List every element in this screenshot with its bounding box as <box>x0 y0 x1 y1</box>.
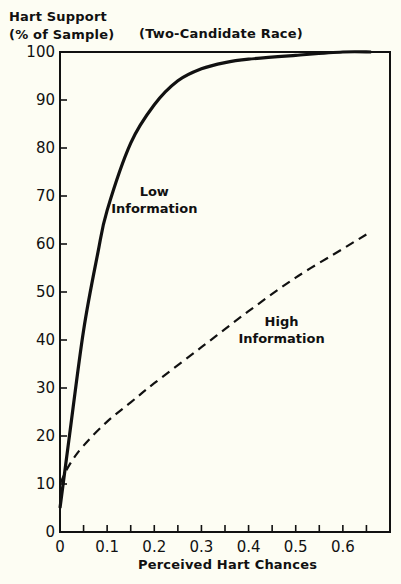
y-tick-label: 80 <box>36 139 55 157</box>
high-information-line <box>60 234 366 484</box>
series-labels: LowInformationHighInformation <box>111 184 325 346</box>
x-tick-label: 0.3 <box>189 538 213 556</box>
x-axis-ticks: 00.10.20.30.40.50.6 <box>55 525 366 556</box>
y-tick-label: 30 <box>36 379 55 397</box>
plot-frame <box>60 52 390 532</box>
y-tick-label: 70 <box>36 187 55 205</box>
y-tick-label: 90 <box>36 91 55 109</box>
high-information-label: High <box>265 314 299 329</box>
low-information-line <box>60 52 371 508</box>
x-tick-label: 0.6 <box>331 538 355 556</box>
high-information-label: Information <box>238 331 324 346</box>
x-tick-label: 0.5 <box>284 538 308 556</box>
x-tick-label: 0.1 <box>95 538 119 556</box>
y-tick-label: 10 <box>36 475 55 493</box>
y-tick-label: 100 <box>26 43 55 61</box>
y-tick-label: 20 <box>36 427 55 445</box>
x-tick-label: 0 <box>55 538 65 556</box>
low-information-label: Information <box>111 201 197 216</box>
y-tick-label: 40 <box>36 331 55 349</box>
y-tick-label: 60 <box>36 235 55 253</box>
low-information-label: Low <box>140 184 169 199</box>
y-tick-label: 0 <box>45 523 55 541</box>
y-tick-label: 50 <box>36 283 55 301</box>
x-tick-label: 0.2 <box>142 538 166 556</box>
x-tick-label: 0.4 <box>237 538 261 556</box>
plot-area: 0102030405060708090100 00.10.20.30.40.50… <box>0 0 401 584</box>
series-lines <box>60 52 371 508</box>
